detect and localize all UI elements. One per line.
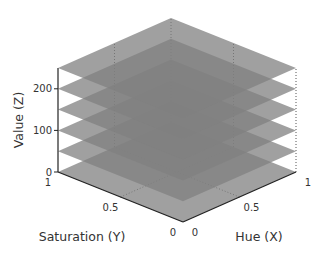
x-tick-label: 0.5	[244, 202, 260, 213]
chart-3d-planes: 010020000.5100.51 Value (Z) Saturation (…	[0, 0, 320, 258]
z-tick-label: 100	[33, 125, 52, 136]
z-tick-label: 0	[46, 167, 52, 178]
y-tick-label: 1	[45, 177, 51, 188]
x-tick-label: 0	[192, 227, 198, 238]
y-axis-label: Saturation (Y)	[39, 229, 126, 244]
x-tick-label: 1	[305, 177, 311, 188]
y-tick-label: 0.5	[103, 202, 119, 213]
z-tick-label: 200	[33, 83, 52, 94]
x-axis-label: Hue (X)	[235, 229, 282, 244]
planes	[58, 18, 296, 222]
y-tick-label: 0	[170, 227, 176, 238]
z-axis-label: Value (Z)	[11, 92, 26, 149]
